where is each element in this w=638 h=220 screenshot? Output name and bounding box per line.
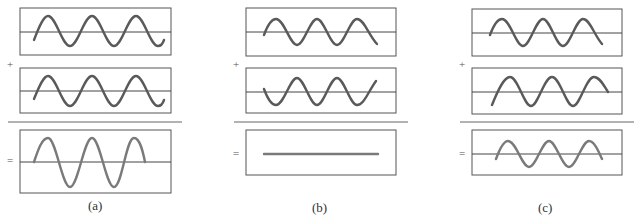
equals-sign-b: = <box>233 147 239 159</box>
panel-b-result-box <box>246 130 396 175</box>
plus-sign-a: + <box>7 58 13 70</box>
wave-superposition-diagram <box>0 0 638 220</box>
panel-c-label: (c) <box>538 200 552 216</box>
panel-b-wave2-box <box>246 68 396 113</box>
panel-a-label: (a) <box>88 198 102 214</box>
equals-sign-c: = <box>459 147 465 159</box>
plus-sign-b: + <box>233 58 239 70</box>
panel-b-label: (b) <box>312 200 327 216</box>
equals-sign-a: = <box>7 154 13 166</box>
panel-c-wave2-box <box>472 68 622 114</box>
plus-sign-c: + <box>459 58 465 70</box>
